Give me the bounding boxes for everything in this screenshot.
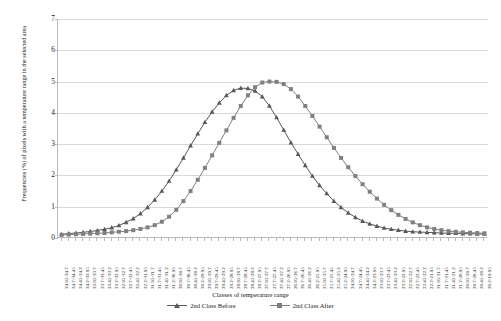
data-point-marker <box>475 231 479 235</box>
data-point-marker <box>454 230 458 234</box>
data-point-marker <box>332 146 336 150</box>
data-point-marker <box>224 93 229 97</box>
data-point-marker <box>325 135 329 139</box>
data-point-marker <box>303 104 307 108</box>
x-axis-labels: 34.95-34.734.7-34.4534.45-34.234.2-33.95… <box>57 241 487 291</box>
data-point-marker <box>117 230 121 234</box>
data-point-marker <box>461 230 465 234</box>
data-point-marker <box>153 223 157 227</box>
plot-area: 01234567 <box>57 19 487 238</box>
data-point-marker <box>447 229 451 233</box>
data-point-marker <box>203 166 207 170</box>
y-axis-tick-label: 7 <box>44 15 55 22</box>
data-point-marker <box>81 232 85 236</box>
data-point-marker <box>124 229 128 233</box>
legend-label: 2nd Class Before <box>190 302 235 309</box>
y-axis-tick-label: 3 <box>44 140 55 147</box>
data-point-marker <box>368 190 372 194</box>
data-point-marker <box>275 80 279 84</box>
y-axis-tick-label: 4 <box>44 109 55 116</box>
data-point-marker <box>217 141 221 145</box>
data-point-marker <box>353 215 358 219</box>
data-point-marker <box>339 156 343 160</box>
y-axis-tick-label: 6 <box>44 46 55 53</box>
data-point-marker <box>282 82 286 86</box>
series-1 <box>59 86 487 237</box>
data-point-marker <box>239 104 243 108</box>
series-layer <box>58 19 488 238</box>
data-point-marker <box>181 199 185 203</box>
data-point-marker <box>95 231 99 235</box>
data-point-marker <box>138 227 142 231</box>
data-point-marker <box>88 232 92 236</box>
y-axis-tick-label: 5 <box>44 78 55 85</box>
data-point-marker <box>375 197 379 201</box>
data-point-marker <box>482 231 486 235</box>
data-point-marker <box>267 80 271 84</box>
data-point-marker <box>418 223 422 227</box>
series-2 <box>60 80 487 237</box>
data-point-marker <box>224 128 228 132</box>
data-point-marker <box>60 233 64 237</box>
legend-label: 2nd Class After <box>293 302 334 309</box>
data-point-marker <box>174 208 178 212</box>
data-point-marker <box>67 233 71 237</box>
data-point-marker <box>468 231 472 235</box>
data-point-marker <box>425 225 429 229</box>
y-axis-tick-label: 2 <box>44 171 55 178</box>
data-point-marker <box>389 208 393 212</box>
x-axis-tick-label: 20.2-19.95 <box>486 241 494 289</box>
data-point-marker <box>353 174 357 178</box>
data-point-marker <box>110 230 114 234</box>
data-point-marker <box>404 217 408 221</box>
data-point-marker <box>196 178 200 182</box>
data-point-marker <box>382 203 386 207</box>
triangle-marker-icon <box>174 303 180 308</box>
data-point-marker <box>289 87 293 91</box>
y-axis-tick-label: 1 <box>44 203 55 210</box>
data-point-marker <box>146 225 150 229</box>
data-point-marker <box>296 95 300 99</box>
data-point-marker <box>346 165 350 169</box>
legend-item-2[interactable]: 2nd Class After <box>270 302 334 309</box>
data-point-marker <box>167 215 171 219</box>
data-point-marker <box>246 93 250 97</box>
data-point-marker <box>260 81 264 85</box>
series-line <box>62 82 485 235</box>
data-point-marker <box>232 116 236 120</box>
data-point-marker <box>439 228 443 232</box>
data-point-marker <box>189 189 193 193</box>
data-point-marker <box>432 227 436 231</box>
data-point-marker <box>361 182 365 186</box>
data-point-marker <box>310 114 314 118</box>
y-axis-title: Frequencies (%) of pixels with a tempera… <box>20 0 28 234</box>
data-point-marker <box>103 231 107 235</box>
data-point-marker <box>253 85 257 89</box>
data-point-marker <box>396 213 400 217</box>
chart-figure: Frequencies (%) of pixels with a tempera… <box>0 0 501 321</box>
series-line <box>62 88 485 234</box>
legend-item-1[interactable]: 2nd Class Before <box>167 302 235 309</box>
data-point-marker <box>131 228 135 232</box>
legend-swatch <box>167 302 187 309</box>
y-axis-tick-label: 0 <box>44 234 55 241</box>
data-point-marker <box>160 220 164 224</box>
data-point-marker <box>411 220 415 224</box>
x-axis-title: Classes of temperature range <box>0 291 501 298</box>
chart-legend: 2nd Class Before2nd Class After <box>0 302 501 309</box>
data-point-marker <box>318 125 322 129</box>
data-point-marker <box>74 232 78 236</box>
square-marker-icon <box>277 303 282 308</box>
data-point-marker <box>210 153 214 157</box>
legend-swatch <box>270 302 290 309</box>
data-point-marker <box>131 216 136 220</box>
